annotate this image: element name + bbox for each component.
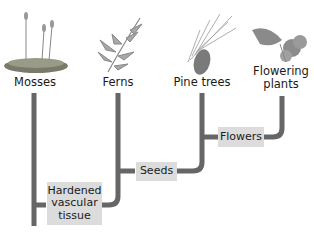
trait-hardened-vascular-tissue: Hardened vascular tissue <box>47 182 102 225</box>
trait-seeds: Seeds <box>136 162 177 181</box>
moss-illustration-icon <box>4 12 68 73</box>
taxon-label-ferns: Ferns <box>90 76 146 89</box>
pine-branch-illustration-icon <box>188 14 236 77</box>
flowering-plants-text: Flowering plants <box>253 64 309 91</box>
taxon-label-flowering-plants: Flowering plants <box>248 65 314 91</box>
flower-illustration-icon <box>252 28 307 62</box>
taxon-label-mosses: Mosses <box>4 76 66 89</box>
taxon-label-pine-trees: Pine trees <box>168 76 236 89</box>
trait-flowers: Flowers <box>218 127 264 147</box>
fern-illustration-icon <box>98 18 142 72</box>
